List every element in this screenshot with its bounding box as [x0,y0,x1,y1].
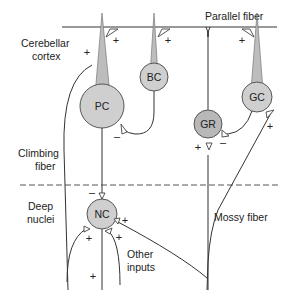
climbing-fiber-sign: + [84,46,90,58]
cerebellar-label-line1: Cerebellar [21,37,70,49]
pc-parallel-sign: + [113,34,119,46]
pc-nc-sign: – [89,186,96,198]
gc-parallel-sign: + [239,34,245,46]
pc-label: PC [95,100,110,112]
deep-nuclei-label-line1: Deep [28,200,53,212]
mossy-gc-sign: + [267,120,273,132]
parallel-fiber-label: Parallel fiber [205,10,264,22]
climbing-collateral-nc [67,229,86,282]
mossy-nc-sign: + [116,231,122,243]
other-nc-sign: + [122,214,128,226]
gc-dendrite [251,13,263,90]
gr-label: GR [200,118,216,130]
gc-label: GC [249,91,265,103]
bc-label: BC [147,71,162,83]
mossy-fiber-path [207,113,271,290]
pc-nc-synapse [99,193,105,199]
bc-pc-sign: – [114,130,121,142]
gr-mossy-sign: + [195,141,201,153]
bc-parallel-sign: + [165,34,171,46]
bc-axon [122,91,154,134]
mossy-gc-synapse [266,110,274,118]
deep-nuclei-label-line2: nuclei [27,213,54,225]
cerebellar-label-line2: cortex [32,50,61,62]
climbing-nc-sign: + [86,232,92,244]
nc-label: NC [94,208,110,220]
other-inputs-label-line1: Other [127,248,154,260]
cerebellar-circuit-diagram: Parallel fiber Cerebellar cortex Climbin… [0,0,292,299]
pc-dendrite [95,13,110,95]
mossy-fiber-label: Mossy fiber [214,211,268,223]
gc-axon [222,111,252,134]
gr-mossy-synapse [206,143,212,150]
climbing-fiber-label-line2: fiber [35,160,56,172]
gc-gr-sign: – [220,136,227,148]
other-inputs-label-line2: inputs [127,261,155,273]
climbing-fiber-label-line1: Climbing [18,147,59,159]
nc-axon-sign: + [90,270,96,282]
bc-pc-synapse [121,124,127,134]
